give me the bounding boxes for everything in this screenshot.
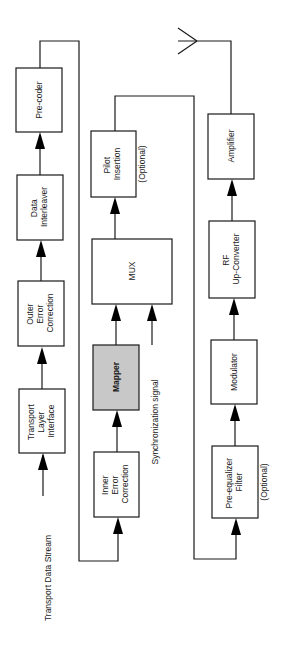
block-data-interleaver: Data Interleaver (17, 175, 63, 240)
synchronization-signal-label: Synchronization signal (150, 379, 160, 464)
wire-amplifier-to-antenna (178, 41, 231, 114)
arrow-preeq-to-modulator (230, 404, 240, 446)
block-diagram: Transport Data Stream Transport Layer In… (0, 0, 284, 645)
transport-data-stream-label: Transport Data Stream (43, 535, 53, 621)
arrow-mapper-to-mux (111, 304, 121, 345)
arrow-outer-to-interleaver (36, 240, 46, 281)
arrow-tli-to-outer (37, 347, 47, 389)
block-rf-up-converter: RF Up-Converter (209, 221, 255, 298)
arrow-modulator-to-rf (229, 298, 239, 340)
arrow-into-preeq (231, 518, 241, 535)
input-arrow-sync (147, 304, 157, 345)
block-mapper: Mapper (93, 345, 139, 410)
block-pre-equalizer-filter: Pre-equalizer Filter (212, 446, 258, 518)
pilot-optional-note: (Optional) (137, 145, 147, 182)
block-mux: MUX (92, 239, 172, 304)
block-modulator: Modulator (211, 340, 257, 404)
arrow-rf-to-amplifier (227, 179, 237, 221)
input-arrow-transport (38, 453, 48, 496)
arrow-mux-to-pilot (110, 197, 120, 239)
block-transport-layer-interface: Transport Layer Interface (19, 389, 65, 453)
svg-text:Pre-coder: Pre-coder (34, 81, 44, 118)
svg-text:MUX: MUX (127, 261, 137, 280)
preeq-optional-note: (Optional) (259, 463, 269, 500)
svg-text:Amplifier: Amplifier (226, 129, 236, 162)
block-amplifier: Amplifier (208, 114, 254, 179)
block-inner-error-correction: Inner Error Correction (94, 452, 139, 517)
arrow-inner-to-mapper (112, 410, 122, 452)
block-pilot-insertion: Pilot Insertion (91, 131, 136, 197)
svg-text:Mapper: Mapper (111, 361, 121, 392)
arrow-into-inner (113, 517, 123, 534)
block-pre-coder: Pre-coder (16, 68, 62, 132)
svg-text:Modulator: Modulator (229, 353, 239, 391)
block-outer-error-correction: Outer Error Correction (18, 281, 64, 346)
arrow-interleaver-to-precoder (35, 132, 45, 175)
